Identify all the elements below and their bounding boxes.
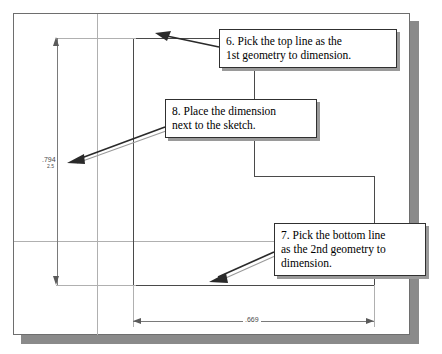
vertical-dimension-line[interactable] <box>57 38 58 285</box>
construction-vertical-line <box>97 14 98 335</box>
vertical-dimension-value[interactable]: .794 <box>42 156 56 163</box>
horizontal-dimension-value[interactable]: .669 <box>243 316 261 323</box>
sketch-left-vertical-line[interactable] <box>133 38 134 286</box>
callout-7-line-3: dimension. <box>281 256 419 270</box>
vertical-dim-lower-extension-line <box>56 285 136 286</box>
callout-8-line-1: 8. Place the dimension <box>172 104 310 118</box>
callout-step-8[interactable]: 8. Place the dimension next to the sketc… <box>165 99 317 138</box>
sketch-bottom-line[interactable] <box>133 285 374 286</box>
callout-step-6[interactable]: 6. Pick the top line as the 1st geometry… <box>219 29 397 68</box>
callout-8-line-2: next to the sketch. <box>172 118 310 132</box>
sketch-step-horizontal-line[interactable] <box>254 176 374 177</box>
callout-7-line-2: as the 2nd geometry to <box>281 242 419 256</box>
figure-canvas: .794 2.5 .669 6. Pick the top line as th… <box>0 0 442 354</box>
callout-step-7[interactable]: 7. Pick the bottom line as the 2nd geome… <box>274 223 426 276</box>
callout-6-line-2: 1st geometry to dimension. <box>226 48 390 62</box>
vertical-dim-upper-extension-line <box>56 38 136 39</box>
horizontal-dim-right-extension-line <box>374 285 375 327</box>
vertical-dimension-subvalue: 2.5 <box>47 164 54 169</box>
callout-6-line-1: 6. Pick the top line as the <box>226 34 390 48</box>
callout-7-line-1: 7. Pick the bottom line <box>281 228 419 242</box>
